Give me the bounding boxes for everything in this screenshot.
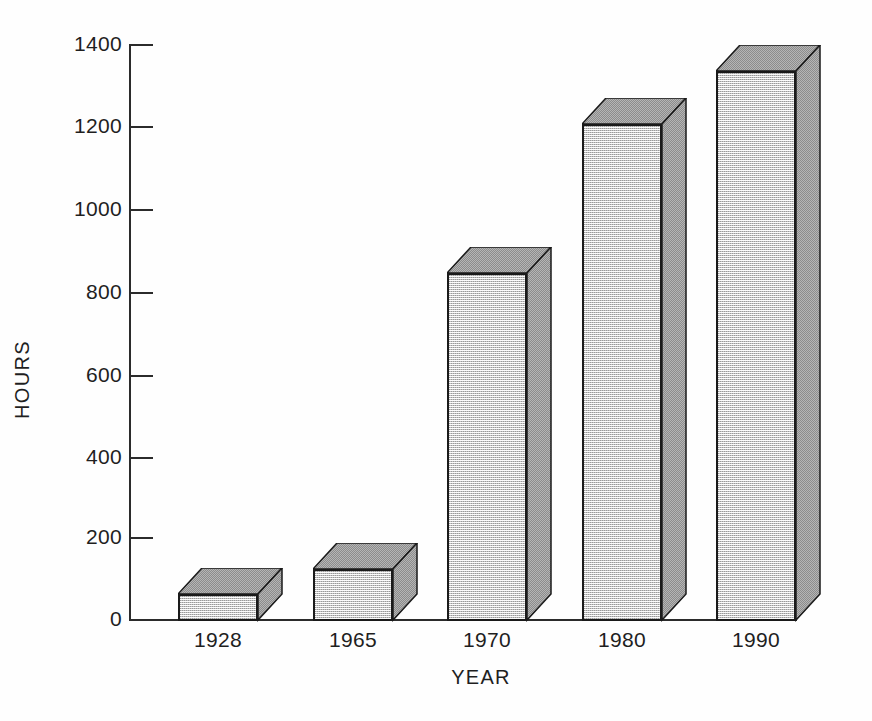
x-axis-title: YEAR [0,666,872,689]
x-tick-label-1980: 1980 [547,628,697,652]
x-tick-label-1990: 1990 [681,628,831,652]
bar-1990-front [716,71,796,621]
bar-1965-front [313,569,393,621]
bar-1970-front [447,273,527,621]
bars-layer [0,0,872,721]
bar-1980-front [582,124,662,621]
x-tick-label-1965: 1965 [278,628,428,652]
bar-chart: 1400 1200 1000 800 600 400 200 0 [0,0,872,721]
y-axis-title: HOURS [11,325,34,435]
x-tick-label-1970: 1970 [412,628,562,652]
x-tick-label-1928: 1928 [143,628,293,652]
bar-1928-front [178,594,258,621]
